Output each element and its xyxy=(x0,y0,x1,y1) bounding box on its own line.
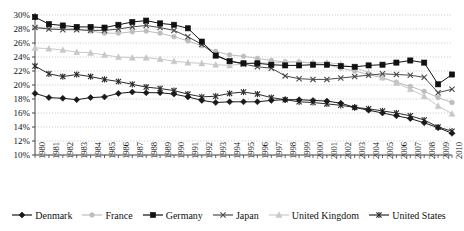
data-point-marker xyxy=(241,99,247,105)
y-axis-tick-label: 30% xyxy=(0,11,30,20)
legend-item-denmark[interactable]: Denmark xyxy=(11,210,72,221)
data-point-marker xyxy=(283,63,288,68)
x-axis-tick-label: 1987 xyxy=(136,142,145,159)
data-point-marker xyxy=(338,64,343,69)
data-point-marker xyxy=(435,103,441,109)
x-axis-tick-label: 1984 xyxy=(94,142,103,159)
data-point-marker xyxy=(436,82,441,87)
legend-item-united-states[interactable]: United States xyxy=(368,210,446,221)
x-axis-tick-label: 2005 xyxy=(386,142,395,159)
x-axis-tick-label: 1993 xyxy=(219,142,228,159)
data-point-marker xyxy=(366,63,371,68)
y-axis-tick-label: 22% xyxy=(0,67,30,76)
data-point-marker xyxy=(102,25,107,30)
data-point-marker xyxy=(254,99,260,105)
legend-item-germany[interactable]: Germany xyxy=(142,210,203,221)
x-axis-tick-label: 2000 xyxy=(316,142,325,159)
x-axis-tick-label: 1998 xyxy=(289,142,298,159)
y-axis-tick-label: 10% xyxy=(0,151,30,160)
data-point-marker xyxy=(158,31,163,36)
legend-label: France xyxy=(105,210,132,221)
data-point-marker xyxy=(213,53,218,58)
legend-item-united-kingdom[interactable]: United Kingdom xyxy=(268,210,360,221)
data-point-marker xyxy=(394,60,399,65)
x-axis-tick-label: 1988 xyxy=(150,142,159,159)
x-axis-tick-label: 2004 xyxy=(372,142,381,159)
legend-marker-triangle-icon xyxy=(268,210,290,220)
data-point-marker xyxy=(324,62,329,67)
series-japan xyxy=(32,23,454,95)
x-axis-tick-label: 1997 xyxy=(275,142,284,159)
data-point-marker xyxy=(32,63,37,69)
legend-marker-diamond-icon xyxy=(11,210,33,220)
x-axis-tick-label: 1992 xyxy=(205,142,214,159)
data-point-marker xyxy=(60,23,65,28)
y-axis-tick-label: 18% xyxy=(0,95,30,104)
data-point-marker xyxy=(227,99,233,105)
legend-marker-circle-icon xyxy=(81,210,103,220)
x-axis-tick-label: 1994 xyxy=(233,142,242,159)
data-point-marker xyxy=(297,63,302,68)
legend-marker-square-icon xyxy=(142,210,164,220)
data-point-marker xyxy=(144,29,149,34)
x-axis-tick-label: 2002 xyxy=(344,142,353,159)
data-point-marker xyxy=(130,29,135,34)
data-point-marker xyxy=(74,24,79,29)
data-point-marker xyxy=(227,59,232,64)
data-point-marker xyxy=(74,97,80,103)
x-axis-tick-label: 1990 xyxy=(177,142,186,159)
y-axis-tick-label: 24% xyxy=(0,53,30,62)
x-axis-tick-label: 1981 xyxy=(52,142,61,159)
legend-label: United States xyxy=(392,210,446,221)
y-axis-tick-label: 26% xyxy=(0,39,30,48)
x-axis-tick-label: 1999 xyxy=(303,142,312,159)
data-point-marker xyxy=(60,95,66,101)
x-axis-tick-label: 2010 xyxy=(455,142,464,159)
data-point-marker xyxy=(32,90,38,96)
data-point-marker xyxy=(408,58,413,63)
data-point-marker xyxy=(436,95,441,100)
data-point-marker xyxy=(32,15,37,20)
data-point-marker xyxy=(255,61,260,66)
data-point-marker xyxy=(172,34,177,39)
y-axis-tick-label: 14% xyxy=(0,123,30,132)
x-axis-tick-label: 1982 xyxy=(66,142,75,159)
data-point-marker xyxy=(129,89,135,95)
data-point-marker xyxy=(449,130,455,136)
x-axis-tick-label: 1996 xyxy=(261,142,270,159)
legend-item-france[interactable]: France xyxy=(81,210,132,221)
data-point-marker xyxy=(310,62,315,67)
data-point-marker xyxy=(115,90,121,96)
data-point-marker xyxy=(421,93,427,99)
x-axis-tick-label: 1985 xyxy=(108,142,117,159)
data-point-marker xyxy=(227,53,232,58)
x-axis-tick-label: 1995 xyxy=(247,142,256,159)
data-point-marker xyxy=(90,213,95,218)
legend-marker-cross-icon xyxy=(212,210,234,220)
data-point-marker xyxy=(213,100,219,106)
legend-label: United Kingdom xyxy=(292,210,360,221)
y-axis-tick-label: 12% xyxy=(0,137,30,146)
x-axis-tick-label: 1986 xyxy=(122,142,131,159)
data-point-marker xyxy=(46,22,51,27)
data-point-marker xyxy=(241,61,246,66)
x-axis-tick-label: 2009 xyxy=(442,142,451,159)
x-axis-tick-label: 2003 xyxy=(358,142,367,159)
data-point-marker xyxy=(269,62,274,67)
legend-label: Denmark xyxy=(35,210,72,221)
data-point-marker xyxy=(116,22,121,27)
y-axis-tick-label: 20% xyxy=(0,81,30,90)
y-axis-tick-label: 16% xyxy=(0,109,30,118)
data-point-marker xyxy=(185,26,190,31)
data-point-marker xyxy=(116,31,121,36)
data-point-marker xyxy=(241,54,246,59)
x-axis-tick-label: 2001 xyxy=(330,142,339,159)
data-point-marker xyxy=(88,24,93,29)
data-point-marker xyxy=(422,60,427,65)
data-point-marker xyxy=(449,72,454,77)
data-point-marker xyxy=(449,111,455,117)
series-germany xyxy=(32,15,454,87)
legend-item-japan[interactable]: Japan xyxy=(212,210,259,221)
data-point-marker xyxy=(186,39,191,44)
